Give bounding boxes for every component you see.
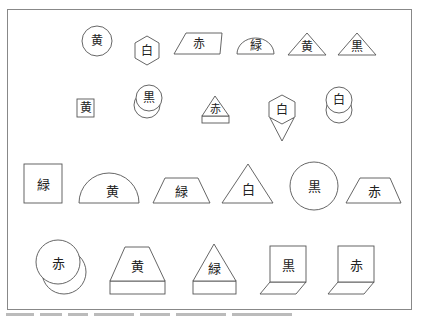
shape-trapezoid-r3-b: 赤 [346, 178, 401, 203]
shape-hexagon-kite-r2: 白 [269, 95, 295, 141]
shape-square-r3: 緑 [24, 164, 62, 203]
shape-folded-square-r4-a: 黒 [260, 246, 306, 294]
shape-diagram: 黄 白 赤 緑 黄 黒 黄 黒 赤 白 白 [0, 0, 424, 317]
shape-trapezoid-r3-a: 緑 [153, 178, 210, 203]
clipped-text-fragment [94, 313, 134, 316]
shape-stacked-circles-r4: 赤 [36, 240, 86, 294]
shape-label: 緑 [175, 184, 188, 199]
shape-label: 黄 [301, 40, 313, 54]
shape-semicircle-r1: 緑 [237, 38, 274, 54]
shape-triangle-r1-b: 黒 [338, 33, 376, 55]
shape-label: 黒 [143, 91, 155, 105]
shape-circle-r3: 黒 [290, 162, 338, 210]
shape-label: 白 [333, 92, 345, 107]
shape-hexagon-r1: 白 [135, 36, 159, 65]
shape-label: 赤 [350, 258, 363, 273]
shape-label: 黄 [91, 34, 103, 48]
clipped-text-fragment [232, 313, 292, 316]
shape-label: 黒 [308, 179, 321, 194]
shape-label: 赤 [210, 103, 221, 116]
shape-label: 白 [141, 43, 153, 58]
shape-label: 黄 [106, 184, 119, 199]
shape-label: 緑 [37, 177, 50, 192]
shape-parallelogram-r1: 赤 [174, 33, 222, 54]
clipped-text-fragment [176, 313, 226, 316]
shape-label: 黄 [80, 101, 92, 115]
shape-semicircle-r3: 黄 [79, 173, 139, 203]
shape-label: 白 [276, 102, 288, 117]
clipped-text-fragment [40, 313, 62, 316]
shape-circle-r1: 黄 [82, 26, 112, 56]
shape-label: 黒 [351, 40, 363, 54]
shape-label: 赤 [368, 184, 381, 199]
shape-label: 緑 [250, 38, 262, 53]
clipped-text-fragment [6, 313, 34, 316]
clipped-text-fragment [68, 313, 88, 316]
shape-square-r2: 黄 [77, 99, 94, 117]
shape-label: 白 [242, 182, 255, 197]
shape-triangle-r1-a: 黄 [288, 33, 326, 55]
shape-label: 黄 [131, 259, 144, 274]
shape-triangle-r3: 白 [222, 164, 273, 203]
shape-label: 赤 [52, 256, 65, 271]
shape-stacked-circles-r2-b: 白 [326, 87, 352, 123]
shape-triangle-on-base-r4: 緑 [193, 244, 236, 294]
shape-folded-square-r4-b: 赤 [328, 246, 374, 294]
clipped-caption-line [6, 311, 406, 317]
shape-label: 黒 [282, 258, 295, 273]
shape-stacked-circles-r2: 黒 [134, 85, 162, 118]
clipped-text-fragment [140, 313, 170, 316]
shape-triangle-on-base-r2: 赤 [202, 96, 229, 123]
shape-label: 緑 [208, 261, 221, 276]
shape-label: 赤 [193, 37, 205, 51]
shape-trapezoid-on-base-r4: 黄 [110, 247, 165, 294]
